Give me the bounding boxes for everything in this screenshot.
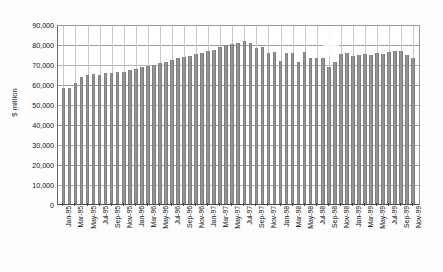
bar: [134, 69, 138, 204]
bar: [411, 58, 415, 204]
bar: [224, 45, 228, 204]
bar: [243, 41, 247, 204]
bar: [399, 51, 403, 204]
x-axis-tickmark: [147, 203, 148, 206]
bar-chart: $ million 90,00080,00070,00060,00050,000…: [0, 0, 443, 272]
x-axis-tick-label: Sep-99: [403, 206, 410, 228]
bar: [62, 88, 66, 204]
x-axis-tickmark: [183, 203, 184, 206]
x-axis-tickmark: [280, 203, 281, 206]
x-axis-tick-label: Mar-98: [295, 206, 302, 228]
bar: [86, 75, 90, 204]
x-axis-tickmark: [400, 203, 401, 206]
y-axis-tick-label: 30,000: [32, 141, 54, 150]
bar: [303, 52, 307, 204]
y-axis-tick-label: 80,000: [32, 41, 54, 50]
y-axis-tick-label: 90,000: [32, 21, 54, 30]
bar: [104, 73, 108, 204]
bar: [351, 56, 355, 204]
bar: [357, 55, 361, 204]
bar: [170, 60, 174, 204]
x-axis-tick-label: Jan-97: [210, 206, 217, 227]
x-axis-tickmark: [195, 203, 196, 206]
bar: [255, 48, 259, 204]
bar: [230, 44, 234, 204]
x-axis-tickmark: [340, 203, 341, 206]
x-axis-tick-label: Mar-99: [367, 206, 374, 228]
x-axis-tickmark: [74, 203, 75, 206]
bar: [146, 66, 150, 204]
x-axis-tickmark: [376, 203, 377, 206]
x-axis-tick-label: Sep-96: [186, 206, 193, 228]
bar: [387, 52, 391, 204]
x-axis-tick-label: Jul-98: [319, 206, 326, 224]
bar: [128, 70, 132, 204]
bar: [206, 51, 210, 204]
bar: [110, 73, 114, 204]
x-axis-tick-label: Sep-97: [258, 206, 265, 228]
x-axis-tick-label: Jan-96: [138, 206, 145, 227]
x-axis-tick-label: Jul-95: [102, 206, 109, 224]
y-axis-tick-label: 60,000: [32, 81, 54, 90]
x-axis-tick-label: Mar-95: [77, 206, 84, 228]
bar: [309, 58, 313, 204]
x-axis-tick-label: May-97: [234, 206, 241, 229]
x-axis-tickmark: [123, 203, 124, 206]
y-axis-tick-label: 10,000: [32, 181, 54, 190]
bar: [158, 63, 162, 204]
bar: [140, 67, 144, 204]
bar: [200, 53, 204, 204]
x-axis-tickmark: [111, 203, 112, 206]
bar: [188, 56, 192, 204]
x-axis-tick-label: Jul-96: [174, 206, 181, 224]
y-axis-tick-label: 70,000: [32, 61, 54, 70]
x-axis-tick-label: Jan-98: [283, 206, 290, 227]
bar: [333, 62, 337, 204]
x-axis-tick-label: May-99: [379, 206, 386, 229]
x-axis-tickmark: [207, 203, 208, 206]
bar: [285, 53, 289, 204]
bar: [176, 58, 180, 204]
x-axis-tickmark: [388, 203, 389, 206]
bar: [92, 74, 96, 204]
bar: [80, 77, 84, 204]
bar-series: [58, 26, 419, 204]
bar: [249, 43, 253, 204]
bar: [68, 88, 72, 204]
bar: [375, 53, 379, 204]
bar: [369, 55, 373, 204]
x-axis-tickmark: [364, 203, 365, 206]
bar: [267, 53, 271, 204]
bar: [182, 57, 186, 204]
y-axis-tick-label: 40,000: [32, 121, 54, 130]
x-axis-tick-label: Mar-97: [222, 206, 229, 228]
bar: [315, 58, 319, 204]
x-axis-tickmark: [304, 203, 305, 206]
plot-area: [57, 25, 420, 205]
bar: [327, 67, 331, 204]
x-axis-tickmark: [135, 203, 136, 206]
x-axis-tick-label: Nov-95: [126, 206, 133, 228]
x-axis-tick-label: May-96: [162, 206, 169, 229]
y-axis-title-label: $ million: [10, 88, 19, 116]
x-axis-tick-label: Jan-99: [355, 206, 362, 227]
x-axis-tick-label: Nov-99: [415, 206, 422, 228]
x-axis-tick-label: Jul-97: [246, 206, 253, 224]
bar: [363, 54, 367, 204]
bar: [152, 65, 156, 204]
x-axis-tickmark: [87, 203, 88, 206]
x-axis-tick-label: Jan-95: [65, 206, 72, 227]
bar: [321, 58, 325, 204]
x-axis-tickmark: [352, 203, 353, 206]
x-axis-tickmark: [219, 203, 220, 206]
bar: [236, 43, 240, 204]
x-axis-tickmark: [267, 203, 268, 206]
x-axis-tick-label: Mar-96: [150, 206, 157, 228]
x-axis-tickmark: [99, 203, 100, 206]
bar: [345, 53, 349, 204]
x-axis-tick-labels: Jan-95Mar-95May-95Jul-95Sep-95Nov-95Jan-…: [57, 206, 423, 272]
x-axis-tick-label: May-95: [90, 206, 97, 229]
bar: [74, 83, 78, 204]
y-axis-tick-label: 20,000: [32, 161, 54, 170]
x-axis-tick-label: Sep-95: [114, 206, 121, 228]
